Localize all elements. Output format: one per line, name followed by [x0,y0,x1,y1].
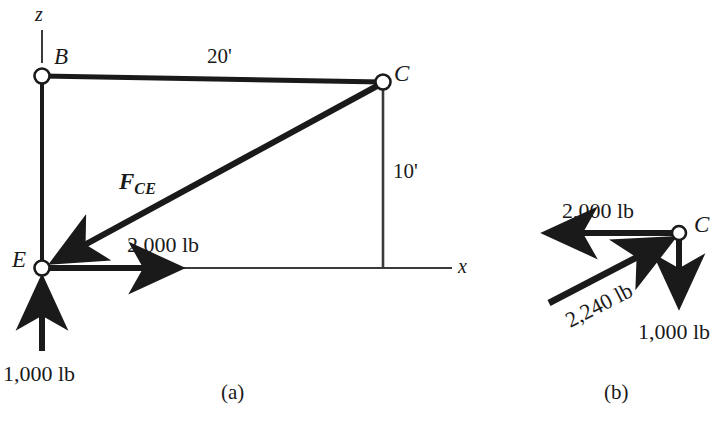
caption-a: (a) [221,382,244,403]
axis-label-z: z [35,4,43,24]
joint-label-c-b: C [694,213,709,236]
joint-e [35,261,50,276]
force-label-fce: FCE [119,170,156,197]
joint-label-b: B [54,45,68,68]
figure-container: z B C E x 20' 10' FCE 2,000 lb 1,000 lb … [0,0,727,433]
dimension-label-20ft: 20' [207,46,232,67]
joint-label-c-a: C [394,62,409,85]
force-label-1000lb-a: 1,000 lb [3,363,75,385]
force-label-fce-symbol: F [119,169,134,194]
force-arrow-fce [55,86,377,261]
caption-b: (b) [604,382,629,403]
force-label-1000lb-b: 1,000 lb [638,321,710,343]
joint-c-b [672,226,686,240]
axis-label-x: x [458,256,467,276]
joint-b [35,69,50,84]
joint-label-e: E [12,248,26,271]
force-label-fce-subscript: CE [134,180,156,197]
force-label-2000lb-a: 2,000 lb [127,234,199,256]
dimension-label-10ft: 10' [393,161,418,182]
joint-c-a [376,75,391,90]
force-label-2000lb-b: 2,000 lb [562,200,634,222]
member-bc [42,76,382,82]
